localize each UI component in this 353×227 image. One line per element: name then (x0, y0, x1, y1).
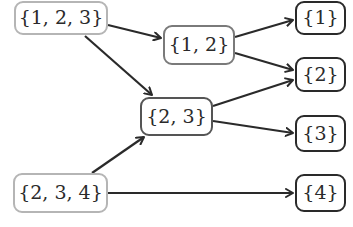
node-label: {1, 2, 3} (19, 6, 104, 28)
node-n2: {2} (296, 58, 345, 91)
edge-arrow (108, 25, 161, 38)
edge-arrow (85, 36, 152, 95)
edge-arrow (235, 53, 293, 70)
node-n234: {2, 3, 4} (14, 174, 107, 212)
edge-arrow (213, 80, 293, 106)
node-label: {2} (302, 63, 338, 85)
edge-arrow (92, 137, 144, 173)
edge-arrow (235, 20, 293, 37)
node-label: {4} (302, 181, 338, 203)
node-n123: {1, 2, 3} (15, 2, 107, 34)
node-n12: {1, 2} (164, 26, 234, 64)
node-n4: {4} (296, 175, 345, 211)
edge-arrow (213, 121, 293, 133)
node-n3: {3} (296, 116, 345, 151)
node-label: {1, 2} (169, 33, 229, 55)
nodes: {1, 2, 3}{1, 2}{2, 3}{2, 3, 4}{1}{2}{3}{… (14, 2, 345, 212)
node-label: {2, 3, 4} (18, 181, 103, 203)
set-lattice-diagram: {1, 2, 3}{1, 2}{2, 3}{2, 3, 4}{1}{2}{3}{… (0, 0, 353, 227)
node-n1: {1} (296, 2, 345, 34)
node-label: {3} (302, 122, 338, 144)
node-label: {2, 3} (146, 105, 206, 127)
node-label: {1} (302, 6, 338, 28)
node-n23: {2, 3} (141, 98, 212, 135)
